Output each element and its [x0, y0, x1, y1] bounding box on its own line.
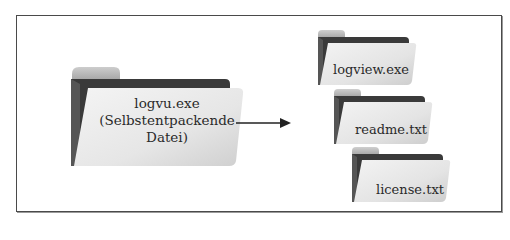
arrow-right-icon — [236, 117, 292, 129]
output-label: license.txt — [371, 182, 449, 198]
output-label: logview.exe — [327, 62, 415, 78]
output-folder-readme: readme.txt — [333, 88, 433, 146]
output-folder-logview: logview.exe — [317, 29, 417, 87]
folder-icon — [317, 29, 417, 87]
source-folder: logvu.exe (Selbstentpackende Datei) — [70, 66, 245, 168]
source-description: (Selbstentpackende — [92, 112, 242, 129]
source-description-end: Datei) — [92, 129, 242, 146]
output-folder-license: license.txt — [351, 146, 451, 204]
output-label: readme.txt — [351, 122, 431, 138]
source-name: logvu.exe — [92, 95, 242, 112]
